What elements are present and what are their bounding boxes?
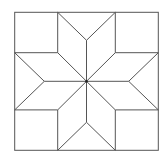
corner-square-bottom-left	[15, 110, 58, 150]
center-point	[85, 80, 87, 82]
corner-square-top-left	[15, 12, 58, 52]
quilt-block-diagram	[0, 0, 166, 163]
corner-square-top-right	[115, 12, 158, 52]
bottom-triangle	[58, 122, 116, 150]
star-diagram	[0, 0, 166, 163]
top-triangle	[58, 12, 116, 40]
corner-square-bottom-right	[115, 110, 158, 150]
left-triangle	[15, 53, 45, 110]
right-triangle	[129, 53, 159, 110]
